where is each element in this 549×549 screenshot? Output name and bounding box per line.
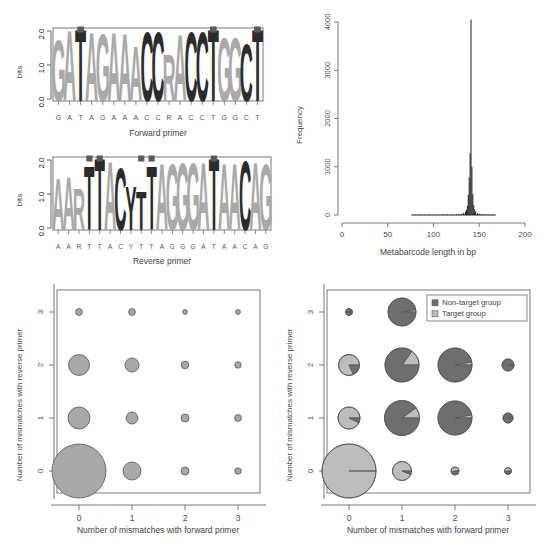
pie-xaxis: 0123 xyxy=(321,505,536,523)
sequence-base: R xyxy=(163,114,174,121)
sequence-base: G xyxy=(219,114,230,121)
histogram-bar xyxy=(474,209,475,215)
sequence-base: A xyxy=(157,243,167,250)
sequence-base: R xyxy=(74,243,84,250)
sequence-base: A xyxy=(108,114,119,121)
bubble-xaxis: 0123 xyxy=(51,505,266,523)
sequence-base: C xyxy=(115,243,125,250)
histogram-ytick: 0 xyxy=(323,213,332,217)
histogram-bar xyxy=(481,214,482,215)
sequence-base: A xyxy=(219,243,229,250)
pie-legend[interactable]: Non-target groupTarget group xyxy=(427,295,527,321)
legend-label-0[interactable]: Non-target group xyxy=(442,298,502,307)
sequence-base: C xyxy=(186,114,197,121)
legend-label-1[interactable]: Target group xyxy=(442,309,486,318)
bubble-xlabel: Number of mismatches with forward primer xyxy=(77,525,239,535)
bubble-marker xyxy=(126,412,138,424)
histogram-bar xyxy=(463,213,464,215)
axis-ytick: 0 xyxy=(36,468,45,473)
panel-mismatch-bubbles: Number of mismatches with reverse primer… xyxy=(0,265,280,549)
sequence-base: G xyxy=(97,114,108,121)
histogram-ytick: 3000 xyxy=(323,62,332,79)
sequence-base: A xyxy=(250,243,260,250)
histogram-xtick: 100 xyxy=(427,230,441,239)
sequence-base: A xyxy=(63,243,73,250)
sequence-base: C xyxy=(240,243,250,250)
axis-ytick: 0 xyxy=(306,468,315,473)
sequence-base: A xyxy=(53,243,63,250)
histogram-bar xyxy=(475,212,476,215)
histogram-bar xyxy=(469,177,470,215)
reverse-logo-xticks xyxy=(58,230,266,234)
reverse-primer-sequence: AARTTACYTTAGGGATAACAG xyxy=(53,243,271,250)
bubble-marker xyxy=(183,310,188,315)
bubble-marker xyxy=(69,355,90,376)
histogram-bar xyxy=(472,194,473,215)
sequence-base: A xyxy=(198,243,208,250)
pie-yaxis: 0123 xyxy=(306,284,324,499)
forward-logo-yaxis: bits 0.0 1.0 2.0 xyxy=(15,29,51,107)
pie-ylabel: Number of mismatches with reverse primer xyxy=(285,328,294,481)
bubble-marker xyxy=(181,361,189,369)
axis-xtick: 0 xyxy=(77,513,82,523)
histogram-bar xyxy=(456,214,457,215)
figure-root: bits 0.0 1.0 2.0 GATAGAAACCRACCTGGCT GAT… xyxy=(0,0,549,549)
sequence-base: A xyxy=(64,114,75,121)
forward-logo-letters: GATAGAAACCRACCTGGCT xyxy=(51,9,263,122)
histogram-xtick: 50 xyxy=(383,230,392,239)
sequence-base: G xyxy=(230,114,241,121)
bubble-marker xyxy=(123,462,141,480)
sequence-base: T xyxy=(136,243,146,250)
bubble-marker xyxy=(236,310,241,315)
histogram-bar xyxy=(471,167,472,215)
axis-xtick: 1 xyxy=(130,513,135,523)
axis-ytick: 1 xyxy=(306,415,315,420)
histogram-bar xyxy=(473,205,474,215)
logo-cap-marker xyxy=(210,27,217,33)
histogram-bar xyxy=(483,214,484,215)
logo-cap-marker xyxy=(211,156,217,162)
sequence-base: G xyxy=(167,243,177,250)
reverse-logo-ytick-2: 2.0 xyxy=(37,158,46,168)
bubble-points xyxy=(52,309,241,498)
histogram-xtick: 0 xyxy=(340,230,345,239)
histogram-bar xyxy=(470,153,471,215)
histogram-bar xyxy=(466,210,467,215)
sequence-base: C xyxy=(197,114,208,121)
sequence-base: A xyxy=(86,114,97,121)
panel-reverse-primer-logo: bits 0.0 1.0 2.0 AARTTACYTTAGGGATAACAG A… xyxy=(0,140,280,265)
sequence-base: G xyxy=(178,243,188,250)
forward-primer-sequence: GATAGAAACCRACCTGGCT xyxy=(53,114,263,121)
panel-forward-primer-logo: bits 0.0 1.0 2.0 GATAGAAACCRACCTGGCT GAT… xyxy=(0,0,280,140)
reverse-logo-ytick-0: 0.0 xyxy=(37,226,46,236)
histogram-bar xyxy=(477,213,478,215)
axis-xtick: 1 xyxy=(400,513,405,523)
axis-ytick: 2 xyxy=(306,362,315,367)
axis-ytick: 3 xyxy=(306,309,315,314)
histogram-ytick: 2000 xyxy=(323,110,332,127)
histogram-bars xyxy=(411,20,496,216)
logo-letter-T: T xyxy=(84,148,94,249)
reverse-logo-yaxis: bits 0.0 1.0 2.0 xyxy=(15,158,51,236)
bubble-marker xyxy=(68,407,90,429)
sequence-base: T xyxy=(146,243,156,250)
histogram-xtick: 200 xyxy=(518,230,532,239)
forward-logo-ytick-0: 0.0 xyxy=(37,97,46,107)
sequence-base: T xyxy=(208,114,219,121)
histogram-ytick: 4000 xyxy=(323,14,332,31)
histogram-bar xyxy=(468,195,469,215)
histogram-bar xyxy=(467,206,468,215)
reverse-logo-ylabel: bits xyxy=(15,194,24,206)
histogram-xaxis: 050100150200 xyxy=(340,223,532,239)
bubble-ylabel: Number of mismatches with reverse primer xyxy=(15,328,24,481)
forward-logo-ytick-1: 1.0 xyxy=(37,63,46,73)
pie-xlabel: Number of mismatches with forward primer xyxy=(347,525,509,535)
forward-logo-ytick-2: 2.0 xyxy=(37,29,46,39)
histogram-bar xyxy=(461,214,462,215)
sequence-base: T xyxy=(209,243,219,250)
sequence-base: A xyxy=(229,243,239,250)
pie-svg: Number of mismatches with reverse primer… xyxy=(270,265,549,549)
histogram-bar xyxy=(459,214,460,215)
histogram-bar xyxy=(447,214,448,215)
logo-cap-marker xyxy=(86,156,92,162)
